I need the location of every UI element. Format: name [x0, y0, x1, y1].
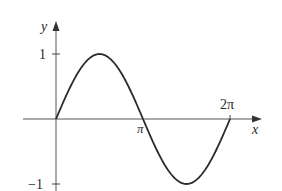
x-tick-label-pi: π: [137, 121, 144, 136]
x-tick-label-two-pi: 2π: [220, 97, 234, 112]
y-tick-label-neg1: −1: [28, 177, 43, 191]
sine-plot: y x 1 −1 π 2π: [0, 0, 282, 191]
y-tick-label-1: 1: [39, 47, 46, 62]
y-axis-label: y: [39, 19, 48, 34]
x-axis-label: x: [251, 122, 259, 137]
y-axis-arrow-icon: [53, 21, 60, 31]
